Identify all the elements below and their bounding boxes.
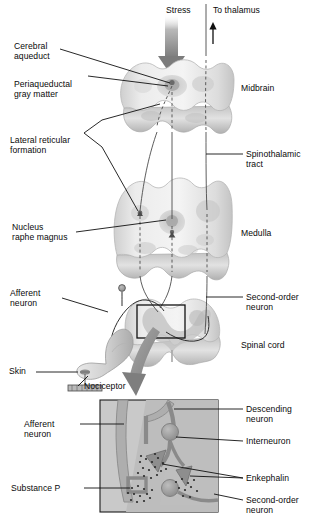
label-substance-p: Substance P <box>11 483 60 493</box>
label-second-order-neuron-upper: Second-order neuron <box>246 292 299 312</box>
label-afferent-neuron-upper: Afferent neuron <box>10 288 40 308</box>
midbrain-cross-section <box>121 60 234 134</box>
label-afferent-neuron-inset: Afferent neuron <box>24 419 54 439</box>
label-lateral-reticular-formation: Lateral reticular formation <box>10 135 70 155</box>
figure-canvas: Stress To thalamus Cerebral aqueduct Per… <box>0 0 318 522</box>
label-enkephalin: Enkephalin <box>246 473 289 483</box>
label-spinal-cord: Spinal cord <box>241 340 285 350</box>
label-interneuron: Interneuron <box>246 436 291 446</box>
nociceptor-ending-icon <box>80 369 90 374</box>
label-medulla: Medulla <box>241 228 271 238</box>
label-skin: Skin <box>9 366 26 376</box>
label-cerebral-aqueduct: Cerebral aqueduct <box>14 41 50 61</box>
medulla-cross-section <box>114 178 232 280</box>
label-nociceptor: Nociceptor <box>84 381 126 391</box>
label-to-thalamus: To thalamus <box>213 5 260 15</box>
label-spinothalamic-tract: Spinothalamic tract <box>246 149 301 169</box>
up-arrow-icon <box>209 22 216 44</box>
label-descending-neuron: Descending neuron <box>246 404 292 424</box>
label-stress: Stress <box>166 5 191 15</box>
spinal-dorsal-horn-detail <box>100 400 218 512</box>
label-periaqueductal-gray-matter: Periaqueductal gray matter <box>14 79 72 99</box>
label-second-order-neuron-inset: Second-order neuron <box>246 495 299 515</box>
interneuron-soma <box>162 424 179 441</box>
label-nucleus-raphe-magnus: Nucleus raphe magnus <box>12 222 68 242</box>
label-midbrain: Midbrain <box>241 83 274 93</box>
dorsal-root-ganglion-icon <box>119 285 126 292</box>
